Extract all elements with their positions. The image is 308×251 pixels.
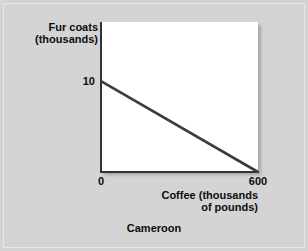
chart-caption: Cameroon <box>0 222 308 234</box>
x-tick-label-600: 600 <box>240 175 276 187</box>
ppf-line <box>101 22 258 172</box>
x-tick-label-0: 0 <box>88 175 114 187</box>
x-axis-label-line2: of pounds) <box>201 201 258 213</box>
y-tick-label-10: 10 <box>62 75 95 87</box>
x-axis-label-line1: Coffee (thousands <box>161 189 258 201</box>
y-axis-label-line2: (thousands) <box>35 33 98 45</box>
ppf-line-segment <box>101 81 258 172</box>
y-axis-label-line1: Fur coats <box>48 21 98 33</box>
ppf-chart-figure: Fur coats(thousands) Coffee (thousandsof… <box>0 0 308 251</box>
x-axis-label: Coffee (thousandsof pounds) <box>118 189 258 213</box>
y-axis-label: Fur coats(thousands) <box>8 21 98 45</box>
